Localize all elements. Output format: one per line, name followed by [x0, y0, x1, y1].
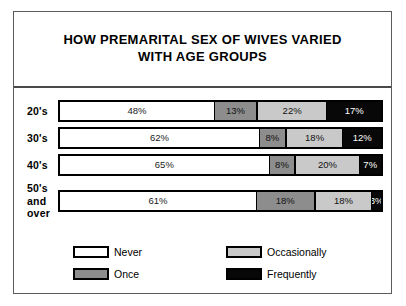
chart-title-line-1: HOW PREMARITAL SEX OF WIVES VARIED	[63, 32, 341, 47]
row-label-line: over	[27, 207, 58, 220]
bar-segment-once: 18%	[256, 192, 314, 210]
bar-segment-never: 62%	[60, 129, 259, 147]
chart-title: HOW PREMARITAL SEX OF WIVES VARIED WITH …	[41, 32, 363, 65]
legend-swatch-never-icon	[73, 246, 109, 258]
chart-row: 30's 62% 8% 18% 12%	[14, 125, 391, 151]
bar-segment-occasionally: 22%	[256, 102, 327, 120]
legend-swatch-occasionally-icon	[226, 246, 262, 258]
chart-row: 50's and over 61% 18% 18% 3%	[14, 182, 391, 220]
row-label-20s: 20's	[14, 105, 58, 118]
bar-segment-once: 8%	[259, 129, 285, 147]
row-label-50s-and-over: 50's and over	[14, 182, 58, 220]
bar-segment-occasionally: 18%	[314, 192, 372, 210]
row-label-line: and	[27, 195, 58, 208]
chart-frame: HOW PREMARITAL SEX OF WIVES VARIED WITH …	[13, 11, 392, 294]
row-label-40s: 40's	[14, 159, 58, 172]
row-label-30s: 30's	[14, 132, 58, 145]
bar-segment-once: 13%	[214, 102, 256, 120]
legend-item-never: Never	[73, 242, 142, 261]
bar-segment-occasionally: 18%	[285, 129, 343, 147]
chart-plot-area: 20's 48% 13% 22% 17% 30's 62% 8% 18%	[14, 88, 391, 238]
bar-segment-occasionally: 20%	[294, 156, 358, 174]
chart-row: 20's 48% 13% 22% 17%	[14, 98, 391, 124]
legend-label-once: Once	[114, 268, 139, 280]
bar-segment-frequently: 7%	[359, 156, 381, 174]
bar-segment-never: 65%	[60, 156, 269, 174]
legend-item-once: Once	[73, 264, 142, 283]
legend-swatch-once-icon	[73, 268, 109, 280]
row-label-line: 20's	[27, 105, 58, 118]
legend-label-never: Never	[114, 246, 142, 258]
legend-item-frequently: Frequently	[226, 264, 327, 283]
chart-title-block: HOW PREMARITAL SEX OF WIVES VARIED WITH …	[14, 12, 391, 86]
chart-page: HOW PREMARITAL SEX OF WIVES VARIED WITH …	[0, 0, 406, 306]
stacked-bar-30s: 62% 8% 18% 12%	[58, 127, 383, 149]
chart-row: 40's 65% 8% 20% 7%	[14, 152, 391, 178]
row-label-line: 30's	[27, 132, 58, 145]
bar-segment-frequently: 17%	[326, 102, 381, 120]
bar-segment-once: 8%	[269, 156, 295, 174]
legend-item-occasionally: Occasionally	[226, 242, 327, 261]
row-label-line: 50's	[27, 182, 58, 195]
chart-title-line-2: WITH AGE GROUPS	[63, 49, 341, 66]
row-label-line: 40's	[27, 159, 58, 172]
legend-swatch-frequently-icon	[226, 268, 262, 280]
legend-column-right: Occasionally Frequently	[226, 242, 327, 286]
stacked-bar-50s-and-over: 61% 18% 18% 3%	[58, 190, 383, 212]
legend-column-left: Never Once	[73, 242, 142, 286]
bar-segment-never: 48%	[60, 102, 214, 120]
bar-segment-never: 61%	[60, 192, 256, 210]
bar-segment-frequently: 3%	[371, 192, 381, 210]
legend-label-frequently: Frequently	[267, 268, 317, 280]
bar-segment-frequently: 12%	[342, 129, 381, 147]
stacked-bar-20s: 48% 13% 22% 17%	[58, 100, 383, 122]
legend-label-occasionally: Occasionally	[267, 246, 327, 258]
stacked-bar-40s: 65% 8% 20% 7%	[58, 154, 383, 176]
chart-legend: Never Once Occasionally Frequently	[14, 242, 391, 292]
